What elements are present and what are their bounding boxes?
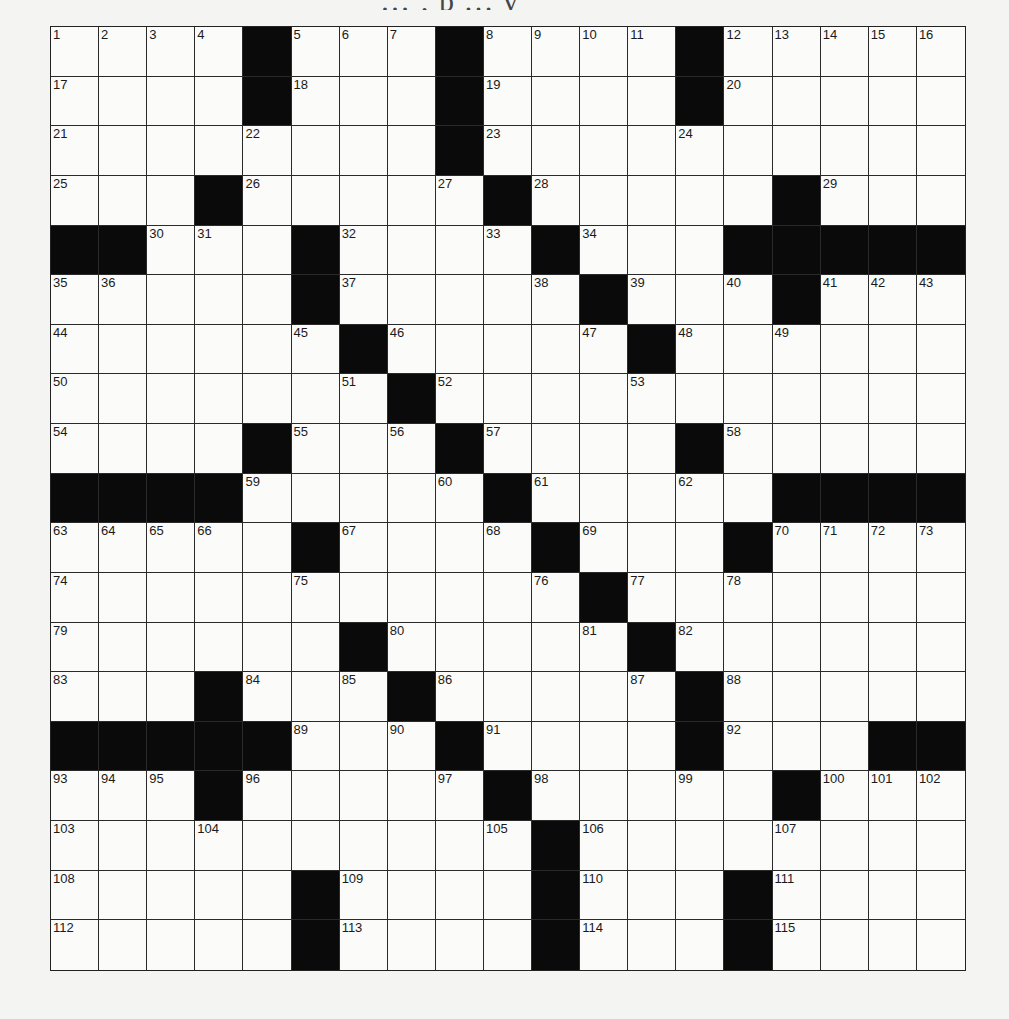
grid-cell[interactable] (243, 226, 291, 276)
grid-cell[interactable] (869, 374, 917, 424)
grid-cell[interactable] (532, 623, 580, 673)
grid-cell[interactable] (388, 474, 436, 524)
grid-cell[interactable] (580, 374, 628, 424)
grid-cell[interactable]: 13 (773, 27, 821, 77)
grid-cell[interactable] (195, 920, 243, 970)
grid-cell[interactable]: 1 (51, 27, 99, 77)
grid-cell[interactable]: 76 (532, 573, 580, 623)
grid-cell[interactable] (676, 920, 724, 970)
grid-cell[interactable]: 34 (580, 226, 628, 276)
grid-cell[interactable]: 59 (243, 474, 291, 524)
grid-cell[interactable] (917, 424, 965, 474)
grid-cell[interactable] (99, 424, 147, 474)
grid-cell[interactable] (340, 126, 388, 176)
grid-cell[interactable] (243, 275, 291, 325)
grid-cell[interactable] (147, 374, 195, 424)
grid-cell[interactable]: 105 (484, 821, 532, 871)
grid-cell[interactable]: 94 (99, 771, 147, 821)
grid-cell[interactable]: 100 (821, 771, 869, 821)
grid-cell[interactable]: 102 (917, 771, 965, 821)
grid-cell[interactable]: 35 (51, 275, 99, 325)
grid-cell[interactable] (388, 275, 436, 325)
grid-cell[interactable] (917, 325, 965, 375)
grid-cell[interactable] (532, 424, 580, 474)
grid-cell[interactable] (388, 77, 436, 127)
grid-cell[interactable] (773, 722, 821, 772)
grid-cell[interactable]: 97 (436, 771, 484, 821)
grid-cell[interactable] (340, 771, 388, 821)
grid-cell[interactable]: 77 (628, 573, 676, 623)
grid-cell[interactable] (243, 374, 291, 424)
grid-cell[interactable] (436, 275, 484, 325)
grid-cell[interactable] (628, 424, 676, 474)
grid-cell[interactable] (243, 523, 291, 573)
grid-cell[interactable]: 68 (484, 523, 532, 573)
grid-cell[interactable] (243, 920, 291, 970)
grid-cell[interactable] (869, 821, 917, 871)
grid-cell[interactable]: 3 (147, 27, 195, 77)
grid-cell[interactable] (99, 374, 147, 424)
grid-cell[interactable] (195, 424, 243, 474)
grid-cell[interactable] (580, 474, 628, 524)
grid-cell[interactable] (773, 623, 821, 673)
grid-cell[interactable]: 53 (628, 374, 676, 424)
grid-cell[interactable] (243, 821, 291, 871)
grid-cell[interactable]: 7 (388, 27, 436, 77)
grid-cell[interactable] (917, 871, 965, 921)
grid-cell[interactable] (869, 623, 917, 673)
grid-cell[interactable]: 96 (243, 771, 291, 821)
grid-cell[interactable]: 62 (676, 474, 724, 524)
grid-cell[interactable] (340, 722, 388, 772)
grid-cell[interactable]: 82 (676, 623, 724, 673)
grid-cell[interactable] (821, 821, 869, 871)
grid-cell[interactable] (821, 871, 869, 921)
grid-cell[interactable] (532, 722, 580, 772)
grid-cell[interactable]: 107 (773, 821, 821, 871)
grid-cell[interactable] (869, 176, 917, 226)
grid-cell[interactable] (292, 821, 340, 871)
grid-cell[interactable] (147, 871, 195, 921)
grid-cell[interactable] (917, 821, 965, 871)
grid-cell[interactable] (484, 325, 532, 375)
grid-cell[interactable]: 16 (917, 27, 965, 77)
grid-cell[interactable] (580, 722, 628, 772)
grid-cell[interactable] (436, 226, 484, 276)
grid-cell[interactable] (580, 176, 628, 226)
grid-cell[interactable] (147, 176, 195, 226)
grid-cell[interactable]: 79 (51, 623, 99, 673)
grid-cell[interactable]: 40 (724, 275, 772, 325)
grid-cell[interactable]: 19 (484, 77, 532, 127)
grid-cell[interactable] (195, 573, 243, 623)
grid-cell[interactable] (821, 672, 869, 722)
grid-cell[interactable]: 39 (628, 275, 676, 325)
grid-cell[interactable]: 83 (51, 672, 99, 722)
grid-cell[interactable] (147, 672, 195, 722)
grid-cell[interactable] (340, 474, 388, 524)
grid-cell[interactable] (869, 573, 917, 623)
grid-cell[interactable]: 106 (580, 821, 628, 871)
grid-cell[interactable]: 12 (724, 27, 772, 77)
grid-cell[interactable] (99, 573, 147, 623)
grid-cell[interactable]: 115 (773, 920, 821, 970)
grid-cell[interactable] (484, 871, 532, 921)
grid-cell[interactable] (436, 523, 484, 573)
grid-cell[interactable] (243, 871, 291, 921)
grid-cell[interactable]: 50 (51, 374, 99, 424)
grid-cell[interactable] (484, 275, 532, 325)
grid-cell[interactable] (917, 126, 965, 176)
grid-cell[interactable] (292, 176, 340, 226)
grid-cell[interactable] (388, 226, 436, 276)
grid-cell[interactable]: 32 (340, 226, 388, 276)
grid-cell[interactable]: 91 (484, 722, 532, 772)
grid-cell[interactable]: 36 (99, 275, 147, 325)
grid-cell[interactable]: 45 (292, 325, 340, 375)
grid-cell[interactable] (917, 176, 965, 226)
grid-cell[interactable] (147, 126, 195, 176)
grid-cell[interactable] (484, 374, 532, 424)
grid-cell[interactable] (195, 871, 243, 921)
grid-cell[interactable] (628, 523, 676, 573)
grid-cell[interactable] (292, 374, 340, 424)
grid-cell[interactable]: 66 (195, 523, 243, 573)
grid-cell[interactable] (243, 623, 291, 673)
grid-cell[interactable] (821, 920, 869, 970)
